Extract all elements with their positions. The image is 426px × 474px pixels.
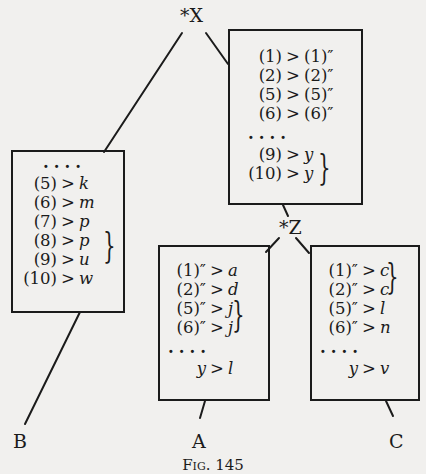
b-box-row: (8)>p [21, 231, 95, 250]
c-box-ellipsis: .... [320, 343, 391, 359]
node-b-label: B [13, 432, 27, 451]
a-box-brace: } [232, 297, 245, 333]
b-box-row: (9)>u [21, 250, 95, 269]
node-a-label: A [192, 432, 206, 451]
x-box-row: (5)>(5)″ [248, 85, 334, 104]
edge-b-box-to-b [25, 312, 80, 424]
x-box-brace: } [318, 150, 331, 186]
c-box-row: (1)″>c [320, 261, 391, 280]
a-box-row: y>l [168, 359, 239, 378]
node-x-label: *X [180, 6, 203, 25]
b-box-row: (10)>w [21, 269, 95, 288]
edge-a-box-to-a [200, 401, 205, 418]
b-box-ellipsis: .... [21, 158, 95, 174]
x-box-ellipsis: .... [248, 129, 334, 145]
b-box-row: (7)>p [21, 212, 95, 231]
a-box-row: (5)″>j [168, 299, 239, 318]
a-box: (1)″>a (2)″>d (5)″>j (6)″>j .... y>l } [158, 245, 270, 401]
a-box-row: (1)″>a [168, 261, 239, 280]
c-box-rows: (1)″>c (2)″>c (5)″>l (6)″>n .... y>v [320, 261, 391, 378]
edge-x-to-x-box [206, 33, 228, 64]
edge-x-to-b-box [104, 33, 182, 152]
a-box-ellipsis: .... [168, 343, 239, 359]
c-box-brace: } [386, 259, 399, 295]
edge-c-box-to-c [386, 401, 393, 416]
edge-z-to-c-box [296, 238, 309, 253]
b-box-row: (5)>k [21, 174, 95, 193]
c-box: (1)″>c (2)″>c (5)″>l (6)″>n .... y>v } [310, 245, 420, 401]
x-box-row: (6)>(6)″ [248, 104, 334, 123]
edge-x-box-to-z [283, 205, 288, 216]
node-c-label: C [389, 432, 404, 451]
b-box-rows: .... (5)>k (6)>m (7)>p (8)>p (9)>u (10)>… [21, 158, 95, 288]
c-box-row: (5)″>l [320, 299, 391, 318]
c-box-row: (2)″>c [320, 280, 391, 299]
a-box-row: (2)″>d [168, 280, 239, 299]
b-box: .... (5)>k (6)>m (7)>p (8)>p (9)>u (10)>… [11, 150, 125, 313]
c-box-row: (6)″>n [320, 318, 391, 337]
b-box-brace: } [103, 228, 116, 264]
c-box-row: y>v [320, 359, 391, 378]
x-box-row: (2)>(2)″ [248, 66, 334, 85]
x-box-row: (1)>(1)″ [248, 47, 334, 66]
a-box-rows: (1)″>a (2)″>d (5)″>j (6)″>j .... y>l [168, 261, 239, 378]
b-box-row: (6)>m [21, 193, 95, 212]
x-box: (1)>(1)″ (2)>(2)″ (5)>(5)″ (6)>(6)″ ....… [228, 29, 363, 205]
figure-caption: Fig. 145 [0, 456, 426, 474]
a-box-row: (6)″>j [168, 318, 239, 337]
node-z-label: *Z [279, 218, 302, 237]
